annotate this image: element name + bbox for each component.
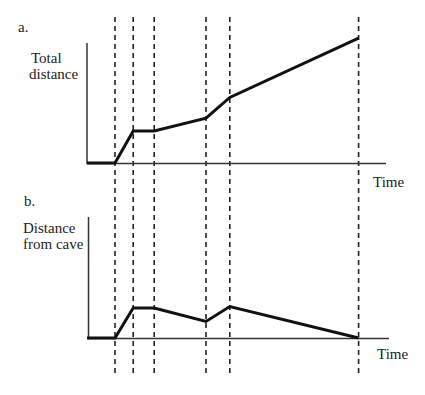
panel-b: b. Distance from cave Time — [23, 193, 408, 362]
panel-b-ylabel-line2: from cave — [23, 236, 84, 252]
panel-a-xlabel: Time — [373, 174, 404, 190]
panel-a-ylabel-line2: distance — [29, 66, 78, 82]
vertical-dashed-lines — [115, 17, 359, 377]
panel-b-distance-from-cave-line — [87, 307, 359, 339]
panel-b-xlabel: Time — [377, 346, 408, 362]
panel-a-ylabel-line1: Total — [31, 50, 62, 66]
panel-a-tag: a. — [18, 19, 28, 35]
panel-a-total-distance-line — [87, 38, 359, 163]
panel-b-ylabel-line1: Distance — [23, 220, 76, 236]
chart-figure: a. Total distance Time b. Distance from … — [0, 0, 425, 395]
panel-a: a. Total distance Time — [18, 19, 404, 190]
panel-b-tag: b. — [24, 193, 35, 209]
